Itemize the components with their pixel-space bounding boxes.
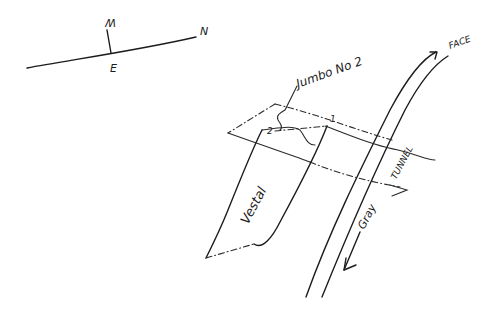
compass: W E N [27, 16, 208, 75]
compass-north-label: N [200, 25, 208, 38]
mine-sketch-diagram: W E N FACE TUNNEL Gray Jumbo No 2 1 2 V [0, 0, 498, 312]
vestal-end-line [206, 244, 254, 258]
vestal-crosscut: Vestal [206, 126, 327, 258]
tunnel-left-wall [306, 52, 436, 297]
gray-direction: Gray [344, 202, 379, 270]
vestal-label: Vestal [237, 184, 269, 226]
compass-east-label: E [110, 62, 117, 75]
jumbo-leader-line [277, 86, 297, 130]
jumbo-label: Jumbo No 2 [292, 54, 364, 92]
gray-label: Gray [355, 202, 379, 232]
compass-tick [107, 30, 111, 53]
platform-drill-line [275, 126, 327, 131]
platform-bottom-edge [228, 133, 310, 162]
tunnel-label: TUNNEL [389, 144, 415, 181]
vestal-upper-wall [254, 126, 327, 246]
point-1-label: 1 [330, 114, 336, 124]
tunnel-right-wall [322, 56, 448, 297]
compass-west-label: W [104, 16, 116, 29]
platform-bottom-extension [310, 162, 400, 187]
face-label: FACE [447, 34, 472, 51]
point-2-label: 2 [267, 126, 273, 136]
